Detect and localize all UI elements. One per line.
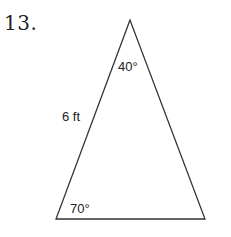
apex-angle-label: 40° <box>118 59 138 74</box>
triangle-diagram: 40° 6 ft 70° <box>0 0 231 237</box>
left-side-length-label: 6 ft <box>62 109 80 124</box>
bottom-left-angle-label: 70° <box>70 201 90 216</box>
